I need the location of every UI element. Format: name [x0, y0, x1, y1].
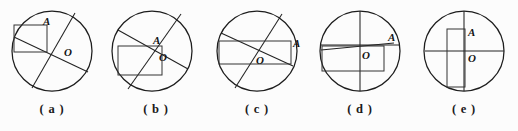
caption-c: ( c ): [205, 102, 309, 117]
chord-b-2: [128, 14, 181, 89]
center-label-d-O: O: [362, 49, 370, 61]
center-label-c-O: O: [256, 54, 264, 66]
inscribed-rectangle-d: [322, 46, 384, 71]
caption-b: ( b ): [104, 102, 208, 117]
center-label-e-O: O: [468, 52, 476, 64]
point-label-d-A: A: [387, 31, 395, 43]
center-label-a-O: O: [64, 46, 72, 58]
figure-panel-c: A O ( c ): [205, 0, 309, 131]
figure-panel-b-drawing: A O: [104, 0, 208, 104]
figure-panel-a-drawing: A O: [0, 0, 104, 104]
point-label-c-A: A: [292, 37, 300, 49]
inscribed-rectangle-e: [447, 29, 465, 87]
caption-a: ( a ): [0, 102, 104, 117]
figure-panel-d-drawing: A O: [308, 0, 412, 104]
circle-outline-c: [217, 11, 297, 91]
point-label-a-A: A: [42, 15, 50, 27]
center-label-b-O: O: [159, 51, 167, 63]
figure-panel-e-drawing: A O: [412, 0, 516, 104]
geometry-figure-strip: A O ( a ) A O ( b ) A O ( c ): [0, 0, 518, 131]
figure-panel-c-drawing: A O: [205, 0, 309, 104]
figure-panel-e: A O ( e ): [412, 0, 516, 131]
caption-d: ( d ): [308, 102, 412, 117]
figure-panel-b: A O ( b ): [104, 0, 208, 131]
circle-outline-b: [112, 11, 192, 91]
circle-outline-a: [12, 11, 92, 91]
point-label-b-A: A: [152, 34, 160, 46]
figure-panel-d: A O ( d ): [308, 0, 412, 131]
figure-panel-a: A O ( a ): [0, 0, 104, 131]
point-label-e-A: A: [467, 26, 475, 38]
chord-c-2: [235, 14, 282, 88]
caption-e: ( e ): [412, 102, 516, 117]
